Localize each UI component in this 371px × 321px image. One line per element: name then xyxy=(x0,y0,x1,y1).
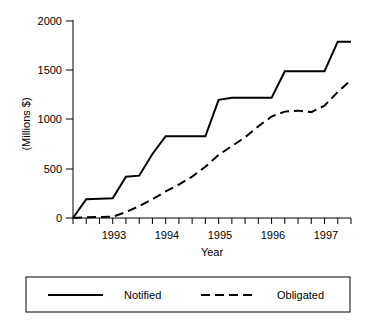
x-tick-label-1996: 1996 xyxy=(261,229,285,241)
x-tick-label-1993: 1993 xyxy=(102,229,126,241)
series-line-obligated xyxy=(73,80,351,218)
line-chart: 2000 1500 1000 500 0 (Millions $) 1993 1… xyxy=(0,0,371,321)
y-axis-group: 2000 1500 1000 500 0 (Millions $) xyxy=(20,15,73,224)
y-tick-label-1500: 1500 xyxy=(38,64,62,76)
y-tick-label-0: 0 xyxy=(56,212,62,224)
chart-figure: 2000 1500 1000 500 0 (Millions $) 1993 1… xyxy=(0,0,371,321)
x-axis-group: 1993 1994 1995 1996 1997 Year xyxy=(73,218,351,258)
x-tick-label-1997: 1997 xyxy=(314,229,338,241)
legend-label-obligated: Obligated xyxy=(277,289,324,301)
x-axis-title: Year xyxy=(201,246,224,258)
y-tick-marks xyxy=(66,21,73,218)
y-tick-label-500: 500 xyxy=(44,163,62,175)
series-group xyxy=(73,42,351,218)
x-tick-label-1994: 1994 xyxy=(155,229,179,241)
y-axis-title: (Millions $) xyxy=(20,97,32,150)
y-tick-label-2000: 2000 xyxy=(38,15,62,27)
series-line-notified xyxy=(73,42,351,218)
legend: Notified Obligated xyxy=(26,277,350,312)
legend-label-notified: Notified xyxy=(124,289,161,301)
x-tick-label-1995: 1995 xyxy=(208,229,232,241)
y-tick-label-1000: 1000 xyxy=(38,113,62,125)
x-tick-marks xyxy=(73,218,351,224)
